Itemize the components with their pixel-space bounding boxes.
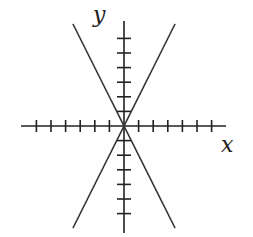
x-axis-label: x — [221, 134, 233, 156]
coordinate-plane — [0, 0, 253, 237]
y-axis-label: y — [93, 4, 105, 26]
